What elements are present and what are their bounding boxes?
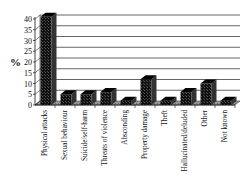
x-category-label: Suicide/self-harm	[81, 110, 89, 162]
x-category-label: Threats of violence	[101, 110, 109, 165]
x-category-label: Not known	[221, 110, 229, 143]
bar	[101, 88, 117, 105]
x-category-label: Property damage	[141, 110, 149, 159]
bar	[81, 90, 97, 105]
y-tick-label: 15	[24, 69, 32, 78]
bar	[141, 75, 157, 105]
x-category-label: Other	[201, 109, 209, 126]
y-axis-label: %	[10, 56, 21, 68]
y-tick-label: 20	[24, 58, 32, 67]
bar	[61, 90, 77, 105]
bar	[41, 13, 57, 105]
y-tick-label: 35	[24, 26, 32, 35]
bar-chart: 0510152025303540 Physical attacksSexual …	[0, 0, 252, 192]
x-category-label: Absconding	[121, 110, 129, 145]
x-category-label: Theft	[161, 110, 169, 126]
y-tick-label: 40	[24, 15, 32, 24]
bar	[181, 88, 197, 105]
bars	[41, 13, 237, 105]
y-tick-label: 5	[28, 90, 32, 99]
y-tick-label: 0	[28, 101, 32, 110]
x-category-label: Physical attacks	[41, 110, 49, 156]
x-axis: Physical attacksSexual behaviourSuicide/…	[35, 105, 235, 171]
x-category-label: Hallucinated/deluded	[181, 110, 189, 172]
y-tick-label: 25	[24, 47, 32, 56]
y-axis: 0510152025303540	[24, 15, 40, 110]
x-category-label: Sexual behaviour	[61, 109, 69, 160]
bar	[201, 80, 217, 106]
y-tick-label: 30	[24, 37, 32, 46]
y-tick-label: 10	[24, 80, 32, 89]
